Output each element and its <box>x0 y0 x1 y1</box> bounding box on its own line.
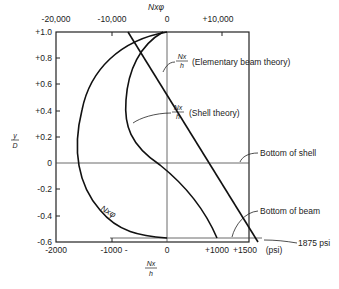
psi-leader <box>264 240 297 243</box>
top-tick-label: +10,000 <box>203 14 234 24</box>
shell-label-text: (Shell theory) <box>189 108 240 118</box>
beam-label-num: Nx <box>178 53 187 60</box>
nxphi-curve-label: Nxφ <box>99 203 118 220</box>
psi-1875-label: 1875 psi <box>298 238 330 248</box>
bottom-axis-den: h <box>149 270 153 277</box>
shell-label-num: Nx <box>174 104 183 111</box>
bottom-beam-leader <box>232 211 258 237</box>
top-tick-label: 0 <box>165 14 170 24</box>
left-tick-label: +1.0 <box>35 27 52 37</box>
y-axis-den: D <box>12 142 17 149</box>
top-axis-title: Nxφ <box>148 2 164 12</box>
chart-canvas: Nxφ -20,000 -10,000 0 +10,000 +1.0 +0.8 … <box>0 0 339 289</box>
bottom-tick-label: 0 <box>165 245 170 255</box>
bottom-tick-label: -1000 - <box>101 245 128 255</box>
shell-leader <box>133 113 171 123</box>
shell-label-den: h <box>176 113 180 120</box>
bottom-tick-label: +1500 <box>233 245 257 255</box>
units-label: (psi) <box>266 245 283 255</box>
beam-label-text: (Elementary beam theory) <box>192 57 290 67</box>
bottom-tick-label: +1000 <box>205 245 229 255</box>
left-tick-label: +0.6 <box>35 79 52 89</box>
left-tick-label: -0.2 <box>37 184 52 194</box>
left-tick-label: +0.4 <box>35 106 52 116</box>
left-tick-label: 0 <box>47 158 52 168</box>
bottom-of-beam-label: Bottom of beam <box>260 206 320 216</box>
top-tick-label: -10,000 <box>98 14 127 24</box>
beam-leader <box>163 62 175 72</box>
beam-label-den: h <box>180 62 184 69</box>
left-tick-label: +0.8 <box>35 53 52 63</box>
bottom-tick-label: -2000 <box>45 245 67 255</box>
bottom-of-shell-label: Bottom of shell <box>260 148 316 158</box>
y-axis-num: y <box>12 132 17 140</box>
top-tick-label: -20,000 <box>42 14 71 24</box>
bottom-axis-num: Nx <box>147 260 156 267</box>
nxphi-curve <box>77 32 167 238</box>
left-tick-label: -0.4 <box>37 211 52 221</box>
left-tick-label: +0.2 <box>35 132 52 142</box>
